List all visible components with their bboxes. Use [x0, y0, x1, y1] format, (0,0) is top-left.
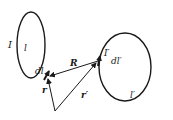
- label-r: r: [42, 85, 48, 95]
- label-I-prime: I′: [103, 48, 110, 58]
- r-prime-vector: [55, 63, 96, 111]
- label-I: I: [7, 39, 13, 50]
- label-l: l: [24, 43, 27, 53]
- label-dl: dl: [35, 66, 44, 76]
- dl-element-arrow: [44, 71, 49, 80]
- two-circuits-diagram: I l dl I′ dl′ l′ R r r′: [0, 0, 173, 120]
- label-R: R: [69, 58, 78, 68]
- r-vector: [48, 79, 55, 111]
- label-l-prime: l′: [130, 90, 135, 100]
- right-loop: [99, 33, 151, 101]
- label-dl-prime: dl′: [111, 56, 122, 66]
- label-r-prime: r′: [81, 90, 89, 100]
